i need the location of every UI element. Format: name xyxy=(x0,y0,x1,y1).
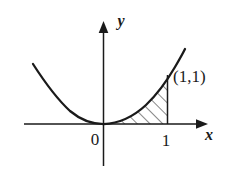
y-axis xyxy=(99,21,109,166)
math-figure: y x 0 1 (1,1) xyxy=(0,0,228,176)
figure-canvas: y x 0 1 (1,1) xyxy=(0,0,228,176)
x-axis xyxy=(24,119,208,129)
point-label-1-1: (1,1) xyxy=(173,67,206,86)
x-axis-label: x xyxy=(204,126,213,143)
y-axis-label: y xyxy=(115,12,125,30)
origin-label: 0 xyxy=(91,130,100,149)
y-axis-arrowhead xyxy=(99,21,109,33)
x-tick-label-1: 1 xyxy=(162,131,171,150)
